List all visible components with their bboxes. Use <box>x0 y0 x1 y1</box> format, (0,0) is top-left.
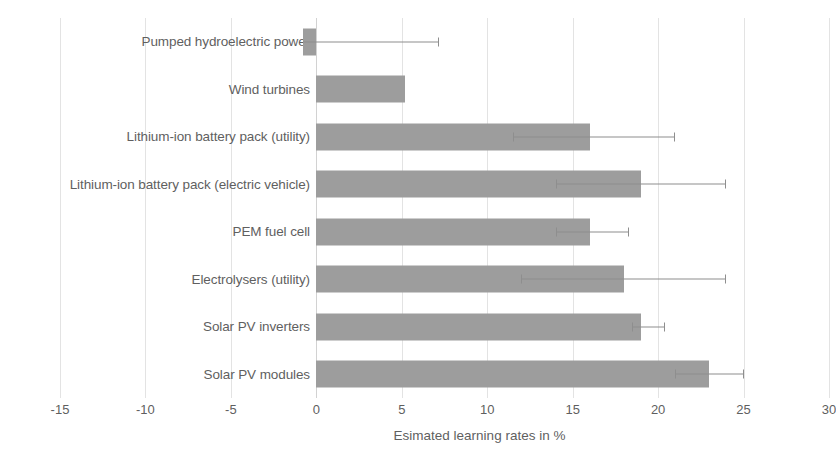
x-tick-label: -5 <box>225 402 237 417</box>
error-bar-cap-high <box>725 275 726 284</box>
x-tick-label: 30 <box>822 402 836 417</box>
error-bar-cap-low <box>556 180 557 189</box>
error-bar-cap-low <box>521 275 522 284</box>
x-tick-label: 25 <box>736 402 750 417</box>
category-label: Pumped hydroelectric power <box>0 34 310 49</box>
error-bar <box>556 231 629 232</box>
error-bar <box>303 41 440 42</box>
bar <box>316 361 709 388</box>
error-bar <box>632 326 664 327</box>
error-bar <box>675 374 743 375</box>
bar-row: Wind turbines <box>60 66 829 114</box>
bar <box>316 313 641 340</box>
x-tick-label: -15 <box>51 402 70 417</box>
category-label: Lithium-ion battery pack (utility) <box>0 129 310 144</box>
bar <box>316 218 589 245</box>
error-bar-cap-high <box>674 132 675 141</box>
x-tick-label: 0 <box>313 402 320 417</box>
category-label: Lithium-ion battery pack (electric vehic… <box>0 177 310 192</box>
x-tick-label: 20 <box>651 402 665 417</box>
error-bar-cap-low <box>513 132 514 141</box>
error-bar <box>556 184 727 185</box>
category-label: Solar PV inverters <box>0 319 310 334</box>
error-bar-cap-low <box>632 322 633 331</box>
x-tick-label: 10 <box>480 402 494 417</box>
bar <box>316 76 405 103</box>
error-bar-cap-high <box>725 180 726 189</box>
error-bar <box>513 136 675 137</box>
error-bar <box>521 279 726 280</box>
category-label: PEM fuel cell <box>0 224 310 239</box>
plot-area: Pumped hydroelectric powerWind turbinesL… <box>60 18 829 398</box>
bar-row: Lithium-ion battery pack (electric vehic… <box>60 161 829 209</box>
x-tick-label: 15 <box>565 402 579 417</box>
bar-row: Electrolysers (utility) <box>60 256 829 304</box>
error-bar-cap-low <box>675 370 676 379</box>
bar-rows: Pumped hydroelectric powerWind turbinesL… <box>60 18 829 398</box>
bar-row: Solar PV inverters <box>60 303 829 351</box>
error-bar-cap-high <box>438 37 439 46</box>
bar-row: Pumped hydroelectric power <box>60 18 829 66</box>
x-axis: -15-10-5051015202530 <box>60 398 829 424</box>
gridline-30 <box>829 18 830 398</box>
error-bar-cap-high <box>664 322 665 331</box>
error-bar-cap-high <box>628 227 629 236</box>
category-label: Wind turbines <box>0 82 310 97</box>
error-bar-cap-high <box>743 370 744 379</box>
error-bar-cap-low <box>556 227 557 236</box>
x-axis-title: Esimated learning rates in % <box>0 428 829 443</box>
x-tick-label: -10 <box>136 402 155 417</box>
category-label: Solar PV modules <box>0 367 310 382</box>
x-tick-label: 5 <box>398 402 405 417</box>
bar-row: Lithium-ion battery pack (utility) <box>60 113 829 161</box>
bar-row: Solar PV modules <box>60 351 829 399</box>
bar-row: PEM fuel cell <box>60 208 829 256</box>
category-label: Electrolysers (utility) <box>0 272 310 287</box>
